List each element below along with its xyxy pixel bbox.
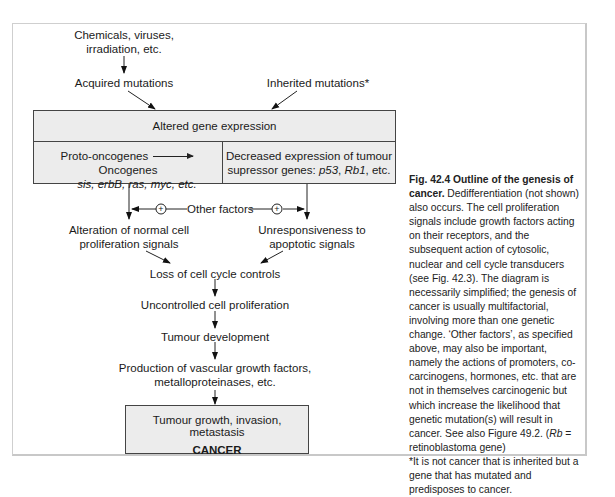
node-production: Production of vascular growth factors, m…: [115, 361, 315, 389]
production-line-2: metalloproteinases, etc.: [115, 375, 315, 389]
caption-body: Dedifferentiation (not shown) also occur…: [409, 188, 579, 439]
node-alteration: Alteration of normal cell proliferation …: [63, 223, 195, 251]
figure-caption: Fig. 42.4 Outline of the genesis of canc…: [409, 173, 581, 497]
node-acquired-mutations: Acquired mutations: [64, 76, 184, 90]
node-unresponsive: Unresponsiveness to apoptotic signals: [257, 223, 367, 251]
plus-right: +: [272, 202, 282, 216]
suppressor-prefix: supressor genes:: [227, 164, 318, 176]
chemicals-line-1: Chemicals, viruses,: [64, 28, 184, 42]
caption-footnote: *It is not cancer that is inherited but …: [409, 455, 581, 497]
cancer-box: Tumour growth, invasion, metastasis CANC…: [125, 405, 309, 454]
oncogenes-label: Oncogenes: [99, 164, 158, 176]
tumour-suppressor-cell: Decreased expression of tumour supressor…: [223, 142, 395, 183]
suppressor-line-1: Decreased expression of tumour: [223, 149, 395, 163]
oncogene-examples-text: sis, erbB, ras, myc, etc.: [77, 178, 197, 190]
suppressor-line-2: supressor genes: p53, Rb1, etc.: [223, 163, 395, 177]
altered-gene-expression-header: Altered gene expression: [34, 111, 395, 142]
gene-rb1: Rb1: [344, 164, 365, 176]
unresponsive-line-2: apoptotic signals: [257, 237, 367, 251]
altered-gene-expression-label: Altered gene expression: [152, 120, 276, 132]
plus-left: +: [156, 202, 166, 216]
right-arrow-icon: [153, 156, 193, 157]
caption-rb: Rb: [549, 428, 562, 439]
oncogenes-cell: Proto-oncogenes Oncogenes sis, erbB, ras…: [34, 142, 223, 183]
cancer-box-description: Tumour growth, invasion, metastasis: [126, 414, 308, 438]
alteration-line-2: proliferation signals: [63, 237, 195, 251]
oncogene-examples: sis, erbB, ras, myc, etc.: [34, 177, 222, 191]
node-tumour-development: Tumour development: [150, 330, 280, 344]
alteration-line-1: Alteration of normal cell: [63, 223, 195, 237]
altered-gene-expression-box: Altered gene expression Proto-oncogenes …: [33, 110, 396, 184]
node-chemicals: Chemicals, viruses, irradiation, etc.: [64, 28, 184, 56]
node-inherited-mutations: Inherited mutations*: [258, 76, 378, 90]
gene-p53: p53: [319, 164, 338, 176]
chemicals-line-2: irradiation, etc.: [64, 42, 184, 56]
node-other-factors: Other factors: [187, 202, 250, 216]
node-uncontrolled-proliferation: Uncontrolled cell proliferation: [130, 298, 300, 312]
suppressor-suffix: , etc.: [366, 164, 391, 176]
cancer-label: CANCER: [126, 444, 308, 456]
proto-oncogenes-label: Proto-oncogenes: [61, 150, 149, 162]
production-line-1: Production of vascular growth factors,: [115, 361, 315, 375]
node-loss-of-controls: Loss of cell cycle controls: [140, 267, 290, 281]
proto-to-onco-row: Proto-oncogenes Oncogenes: [34, 149, 222, 177]
unresponsive-line-1: Unresponsiveness to: [257, 223, 367, 237]
